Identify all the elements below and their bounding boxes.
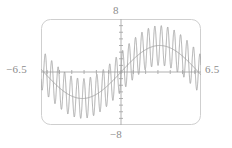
plot-canvas <box>0 0 232 148</box>
graph-viewport: 8 −8 −6.5 6.5 <box>0 0 232 148</box>
